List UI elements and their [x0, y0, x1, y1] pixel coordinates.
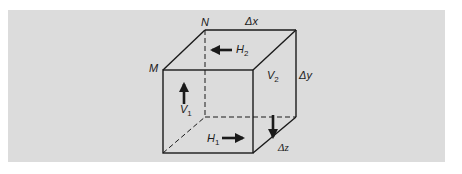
vertex-m-label: M: [149, 63, 158, 74]
v2-label: V2: [267, 70, 279, 84]
edge-top-left: [163, 30, 205, 70]
edge-top-right: [253, 30, 296, 70]
v1-label: V1: [180, 104, 192, 118]
h2-label: H2: [236, 44, 248, 58]
vertex-n-label: N: [201, 17, 209, 28]
delta-z-label: Δz: [278, 142, 289, 153]
delta-x-label: Δx: [245, 16, 258, 27]
h1-label: H1: [207, 133, 219, 147]
hidden-bottom-left-edge: [163, 117, 205, 153]
delta-y-label: Δy: [299, 70, 312, 81]
edge-bottom-right: [253, 117, 296, 153]
cube-diagram: [0, 0, 462, 174]
